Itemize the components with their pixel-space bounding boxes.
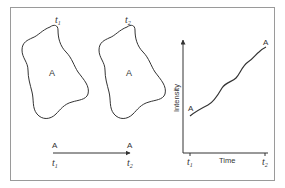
intensity-graph: Intensity Time t1 t2 A A	[172, 38, 269, 168]
blob-t2-time-label: t2	[125, 14, 131, 26]
timeline-start-label: A	[52, 141, 58, 150]
diagram-canvas: t1 A t2 A A A t1 t2 Intensity Time t1 t2…	[0, 0, 285, 188]
region-outline-t2	[99, 25, 165, 118]
x-end-time: t2	[262, 156, 268, 168]
blob-t1-region-label: A	[49, 68, 55, 78]
blob-t2: t2 A	[99, 14, 165, 119]
timeline: A A t1 t2	[52, 141, 133, 169]
x-axis-label: Time	[219, 156, 235, 165]
curve-start-label: A	[188, 104, 194, 113]
y-axis-label: Intensity	[172, 84, 181, 112]
x-start-time: t1	[187, 156, 193, 168]
curve-end-label: A	[263, 38, 269, 47]
region-outline-t1	[22, 25, 88, 118]
intensity-curve	[190, 47, 266, 116]
blob-t1-time-label: t1	[55, 14, 61, 26]
blob-t2-region-label: A	[126, 68, 132, 78]
timeline-end-label: A	[127, 141, 133, 150]
timeline-start-time: t1	[52, 157, 58, 169]
blob-t1: t1 A	[22, 14, 88, 119]
timeline-end-time: t2	[127, 157, 133, 169]
